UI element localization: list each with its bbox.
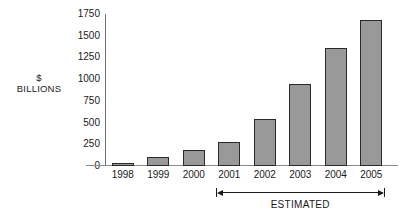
x-axis-tick-label: 2002 <box>254 169 276 181</box>
x-axis-tick-label: 2003 <box>289 169 311 181</box>
y-axis-tick-label: 250 <box>56 139 100 149</box>
y-axis-tick-label: 500 <box>56 118 100 128</box>
x-axis-tick-label: 2004 <box>325 169 347 181</box>
bar <box>147 157 169 166</box>
x-axis-tick-label: 1999 <box>147 169 169 181</box>
bar-chart: $ BILLIONS 02505007501000125015001750 19… <box>0 0 403 218</box>
y-axis-tick-labels: 02505007501000125015001750 <box>56 0 100 218</box>
arrow-left-icon <box>217 190 223 196</box>
estimated-range-rule <box>219 192 382 193</box>
y-axis-tick-label: 1000 <box>56 74 100 84</box>
y-axis-tick-label: 0 <box>56 161 100 171</box>
bar <box>360 20 382 166</box>
x-axis-tick-label: 2001 <box>218 169 240 181</box>
bar <box>289 84 311 166</box>
y-axis-tick-label: 1250 <box>56 52 100 62</box>
plot-area <box>105 14 389 166</box>
x-axis-tick-labels: 19981999200020012002200320042005 <box>105 169 389 185</box>
bar <box>254 119 276 166</box>
y-axis-tick-label: 750 <box>56 96 100 106</box>
bar <box>325 48 347 166</box>
y-axis-tick-label: 1750 <box>56 9 100 19</box>
x-axis-tick-label: 2005 <box>360 169 382 181</box>
bar <box>218 142 240 166</box>
bar <box>183 150 205 166</box>
estimated-label: ESTIMATED <box>216 199 385 211</box>
bar <box>112 163 134 166</box>
x-axis-tick-label: 2000 <box>183 169 205 181</box>
arrow-right-icon <box>378 190 384 196</box>
x-axis-tick-label: 1998 <box>112 169 134 181</box>
y-axis-tick-label: 1500 <box>56 31 100 41</box>
estimated-range-arrow <box>216 188 385 198</box>
